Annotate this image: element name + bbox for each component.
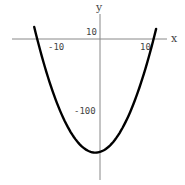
x-tick-label: 10 [140,42,151,52]
plot: x y -10 10 10 -100 [0,0,185,185]
y-axis-label: y [95,1,103,14]
x-tick-label: -10 [48,42,64,52]
y-tick-label: -100 [74,106,96,116]
y-tick-label: 10 [86,27,97,37]
x-axis-label: x [171,32,178,45]
